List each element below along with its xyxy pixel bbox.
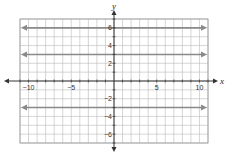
x-tick-label: 10 — [196, 84, 204, 91]
y-tick-label: 2 — [108, 60, 112, 67]
arrow-right-icon — [213, 79, 218, 84]
arrow-right-icon — [201, 51, 207, 57]
y-axis-label: y — [111, 1, 116, 11]
x-tick-label: −10 — [23, 84, 35, 91]
y-tick-label: 4 — [108, 42, 112, 49]
arrow-right-icon — [201, 25, 207, 31]
arrow-right-icon — [201, 105, 207, 111]
x-tick-label: −5 — [67, 84, 75, 91]
y-tick-label: −2 — [104, 95, 112, 102]
arrow-left-icon — [21, 25, 27, 31]
x-tick-label: 5 — [155, 84, 159, 91]
arrow-down-icon — [112, 147, 117, 152]
arrow-left-icon — [4, 79, 9, 84]
coordinate-plane: −10−5510642−2−4−6 x y — [0, 0, 232, 158]
arrow-left-icon — [21, 105, 27, 111]
y-tick-label: −6 — [104, 131, 112, 138]
arrow-left-icon — [21, 51, 27, 57]
y-tick-label: −4 — [104, 113, 112, 120]
x-axis-label: x — [219, 76, 224, 86]
y-tick-label: 6 — [108, 24, 112, 31]
